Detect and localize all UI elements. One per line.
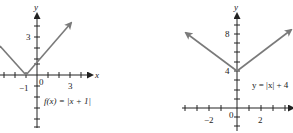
origin-label: 0: [229, 110, 234, 120]
function-label: f(x) = |x + 1|: [44, 96, 91, 106]
y-axis-label: y: [33, 2, 38, 12]
function-label: y = |x| + 4: [252, 80, 289, 90]
right-branch: [26, 23, 71, 75]
left-branch: [0, 46, 26, 75]
x-tick-label-2: 2: [258, 115, 263, 125]
x-tick-label-neg1: −1: [19, 83, 29, 93]
origin-label: 0: [39, 77, 44, 87]
graph-abs-x-plus-1: y x 3 −1 0 3 f(x) = |x + 1|: [0, 2, 99, 128]
x-tick-label-3: 3: [68, 81, 73, 91]
right-branch: [237, 30, 291, 71]
y-tick-label-8: 8: [225, 29, 230, 39]
charts-canvas: y x 3 −1 0 3 f(x) = |x + 1|: [0, 0, 293, 133]
y-tick-label-3: 3: [26, 32, 31, 42]
y-axis-label: y: [233, 2, 238, 12]
x-axis-label: x: [94, 70, 99, 80]
x-tick-label-neg2: −2: [204, 115, 214, 125]
y-tick-label-4: 4: [225, 66, 230, 76]
graph-abs-x-plus-4: y 8 4 −2 0 2 y = |x| + 4: [182, 2, 293, 131]
